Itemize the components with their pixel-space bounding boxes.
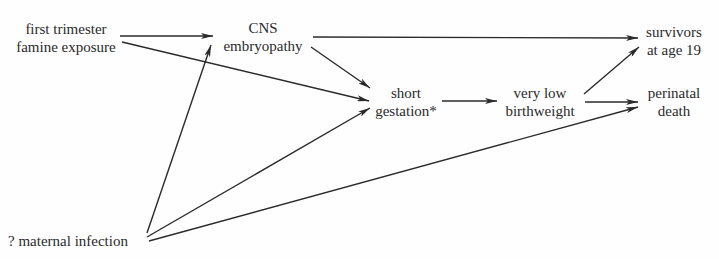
- edge-vlbw-to-survivors: [584, 47, 639, 94]
- node-label-line: CNS: [215, 19, 311, 37]
- node-label-line: death: [637, 102, 711, 120]
- node-label-line: first trimester: [12, 20, 120, 38]
- node-very-low-birthweight: very low birthweight: [497, 84, 583, 120]
- edge-cns-to-short: [311, 47, 370, 88]
- node-label-line: birthweight: [497, 102, 583, 120]
- edge-cns-to-survivors: [313, 37, 638, 38]
- node-label-line: embryopathy: [215, 37, 311, 55]
- node-label-line: ? maternal infection: [8, 232, 128, 250]
- node-maternal-infection: ? maternal infection: [8, 232, 128, 250]
- node-perinatal-death: perinatal death: [637, 84, 711, 120]
- node-label-line: gestation*: [368, 102, 444, 120]
- node-label-line: short: [368, 84, 444, 102]
- node-label-line: famine exposure: [12, 38, 120, 56]
- node-label-line: perinatal: [637, 84, 711, 102]
- node-label-line: very low: [497, 84, 583, 102]
- node-famine-exposure: first trimester famine exposure: [12, 20, 120, 56]
- node-short-gestation: short gestation*: [368, 84, 444, 120]
- node-label-line: at age 19: [637, 41, 711, 59]
- edge-infection-to-short: [147, 108, 370, 237]
- causal-diagram: first trimester famine exposure CNS embr…: [0, 0, 719, 259]
- edge-infection-to-perinatal: [149, 107, 638, 241]
- node-cns-embryopathy: CNS embryopathy: [215, 19, 311, 55]
- node-label-line: survivors: [637, 23, 711, 41]
- node-survivors-at-19: survivors at age 19: [637, 23, 711, 59]
